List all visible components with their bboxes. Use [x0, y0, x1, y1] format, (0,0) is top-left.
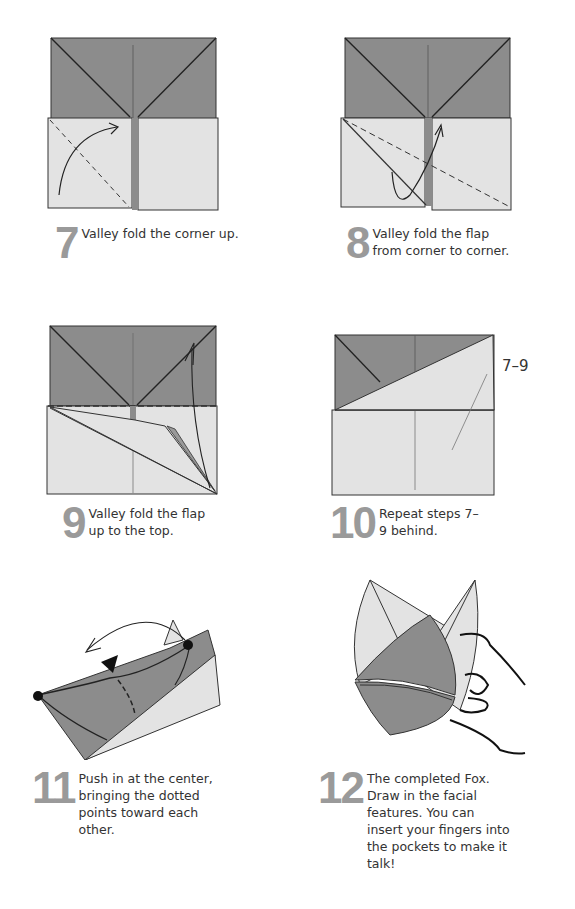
step-number: 12 — [318, 770, 363, 806]
step-number: 8 — [346, 225, 368, 261]
step-10-diagram — [330, 330, 510, 500]
step-text: The completed Fox. Draw in the facial fe… — [367, 770, 512, 872]
step-7-diagram — [45, 35, 220, 215]
step-11: 11 Push in at the center, bringing the d… — [32, 770, 229, 838]
step-number: 11 — [32, 770, 75, 806]
step-12: 12 The completed Fox. Draw in the facial… — [318, 770, 512, 872]
step-text: Valley fold the flap up to the top. — [88, 505, 208, 539]
step-number: 7 — [55, 225, 77, 261]
step-11-diagram — [25, 600, 225, 760]
step-9: 9 Valley fold the flap up to the top. — [62, 505, 208, 541]
step-8: 8 Valley fold the flap from corner to co… — [346, 225, 512, 261]
step-12-diagram — [340, 575, 540, 760]
dot-right — [183, 640, 193, 650]
step-text: Valley fold the corner up. — [81, 225, 241, 242]
step-text: Push in at the center, bringing the dott… — [79, 770, 229, 838]
step-10: 10 Repeat steps 7–9 behind. — [330, 505, 479, 541]
callout-label: 7–9 — [502, 357, 529, 375]
step-text: Repeat steps 7–9 behind. — [379, 505, 479, 539]
step-text: Valley fold the flap from corner to corn… — [372, 225, 512, 259]
step-8-diagram — [340, 35, 515, 215]
step-number: 10 — [330, 505, 375, 541]
step-9-diagram — [45, 323, 225, 498]
step-number: 9 — [62, 505, 84, 541]
dot-left — [33, 691, 43, 701]
step-7: 7 Valley fold the corner up. — [55, 225, 241, 261]
